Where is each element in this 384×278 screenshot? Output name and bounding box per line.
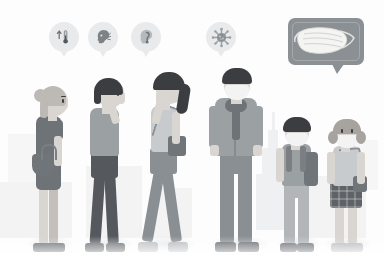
eye xyxy=(242,80,244,84)
pigtail-right xyxy=(356,131,366,144)
hand xyxy=(253,145,262,156)
mask-callout-bubble xyxy=(288,18,364,65)
backpack xyxy=(304,152,318,186)
arm xyxy=(327,152,335,184)
symptom-bubble-cough xyxy=(88,22,118,52)
pigtail-left xyxy=(328,131,338,144)
eyebrow xyxy=(116,89,121,91)
eye xyxy=(301,127,303,131)
person-woman-ponytail xyxy=(138,46,200,252)
eyebrow xyxy=(229,77,234,79)
leg xyxy=(39,182,48,244)
head-cough-icon xyxy=(93,27,113,47)
ground-fade xyxy=(0,236,384,278)
scarf-tail xyxy=(232,108,240,140)
thermometer-icon xyxy=(55,28,73,46)
eyebrow xyxy=(241,77,246,79)
eyebrow xyxy=(61,96,66,98)
hair xyxy=(283,117,311,132)
person-girl-masked xyxy=(322,96,374,252)
leg xyxy=(49,182,58,244)
arm xyxy=(276,148,284,182)
person-boy-masked xyxy=(274,92,324,252)
person-man-coughing xyxy=(80,49,138,252)
leg xyxy=(161,168,182,243)
person-woman-bun xyxy=(22,52,78,252)
eye xyxy=(62,99,64,103)
leg xyxy=(220,169,234,243)
eye xyxy=(230,80,232,84)
sleeve xyxy=(251,106,263,148)
hair-bun xyxy=(34,89,47,102)
person-man-masked xyxy=(206,44,272,252)
eye xyxy=(160,86,162,90)
hair xyxy=(222,68,252,84)
handbag-strap xyxy=(41,144,57,160)
arm xyxy=(357,152,365,184)
leg xyxy=(90,172,106,245)
symptom-bubble-fever xyxy=(49,22,79,52)
hair-back xyxy=(94,90,101,104)
face-mask-icon xyxy=(292,21,358,61)
eye xyxy=(341,129,343,133)
arm xyxy=(172,112,180,144)
eyebrow xyxy=(159,83,164,85)
illustration-canvas xyxy=(0,0,384,278)
sleeve xyxy=(209,106,221,148)
hand xyxy=(210,145,219,156)
leg xyxy=(238,169,252,243)
leg xyxy=(104,172,119,244)
hair-back xyxy=(40,102,48,118)
eye xyxy=(117,92,119,96)
head-throat-icon xyxy=(136,27,156,47)
eye xyxy=(351,129,353,133)
eye xyxy=(291,127,293,131)
backpack-strap xyxy=(300,146,306,172)
